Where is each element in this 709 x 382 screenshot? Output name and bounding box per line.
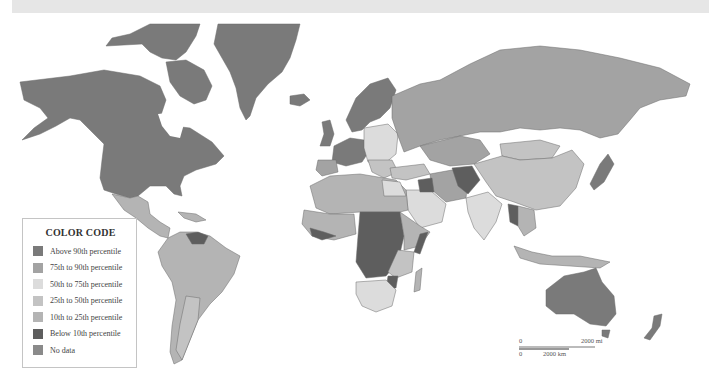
region-russia — [392, 46, 690, 152]
legend-item-75-90: 75th to 90th percentile — [33, 260, 128, 277]
region-australia — [546, 268, 616, 326]
region-myanmar — [508, 204, 518, 226]
region-iceland — [290, 94, 310, 106]
legend-label: No data — [50, 346, 75, 355]
region-arctic-islands — [106, 24, 200, 60]
swatch-25-50 — [33, 296, 43, 306]
region-baffin — [166, 60, 212, 104]
legend-label: 50th to 75th percentile — [50, 280, 122, 289]
legend-label: 10th to 25th percentile — [50, 313, 122, 322]
region-indochina — [518, 206, 536, 236]
swatch-below-10 — [33, 329, 43, 339]
region-india — [466, 192, 502, 240]
region-iberia — [316, 160, 338, 176]
swatch-above-90 — [33, 246, 43, 256]
legend-label: 25th to 50th percentile — [50, 296, 122, 305]
scale-mi-start: 0 — [519, 337, 522, 344]
scale-km-start: 0 — [519, 350, 522, 357]
scale-bar: 0 2000 mi 0 2000 km — [517, 337, 607, 367]
swatch-50-75 — [33, 279, 43, 289]
legend-label: Below 10th percentile — [50, 329, 121, 338]
legend-item-below-10: Below 10th percentile — [33, 326, 128, 343]
region-iraq — [418, 178, 434, 192]
legend-item-50-75: 50th to 75th percentile — [33, 276, 128, 293]
swatch-no-data — [33, 345, 43, 355]
region-east-europe — [364, 124, 398, 164]
region-caribbean — [178, 212, 206, 222]
scale-km-end: 2000 km — [543, 350, 566, 357]
legend-item-no-data: No data — [33, 342, 128, 359]
region-japan — [590, 154, 614, 190]
swatch-10-25 — [33, 312, 43, 322]
legend-item-10-25: 10th to 25th percentile — [33, 309, 128, 326]
region-greenland — [214, 24, 300, 120]
legend-title: COLOR CODE — [33, 227, 128, 238]
region-scandinavia — [346, 78, 396, 132]
legend: COLOR CODE Above 90th percentile 75th to… — [22, 218, 137, 368]
region-new-zealand — [644, 314, 662, 340]
legend-item-25-50: 25th to 50th percentile — [33, 293, 128, 310]
region-egypt — [382, 180, 406, 196]
region-turkey — [390, 164, 430, 180]
swatch-75-90 — [33, 263, 43, 273]
region-indonesia — [514, 246, 610, 268]
scale-mi-end: 2000 mi — [581, 337, 603, 344]
region-south-africa — [356, 280, 396, 312]
legend-label: Above 90th percentile — [50, 247, 121, 256]
region-madagascar — [414, 268, 422, 292]
legend-label: 75th to 90th percentile — [50, 263, 122, 272]
region-uk — [320, 120, 334, 146]
region-mongolia — [500, 140, 560, 160]
legend-item-above-90: Above 90th percentile — [33, 243, 128, 260]
